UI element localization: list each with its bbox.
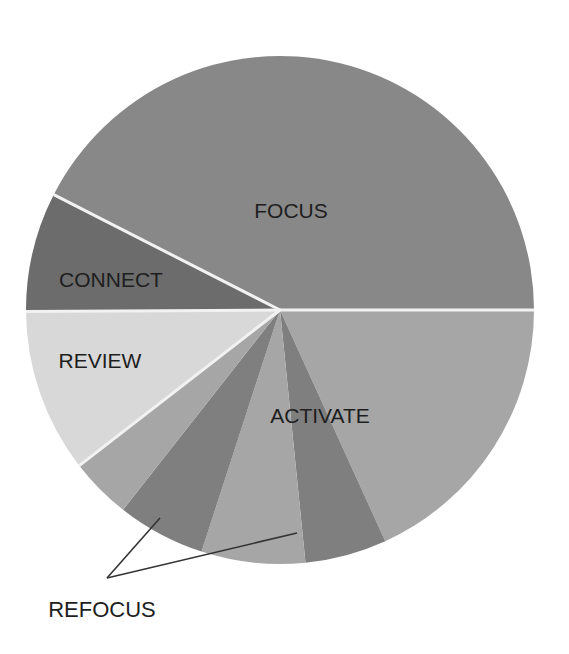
label-review: REVIEW <box>59 349 142 372</box>
slice-separator <box>26 310 280 312</box>
label-activate: ACTIVATE <box>270 404 370 427</box>
pie-chart: FOCUS CONNECT REVIEW ACTIVATE REFOCUS <box>0 0 569 654</box>
label-refocus: REFOCUS <box>48 597 156 622</box>
label-focus: FOCUS <box>254 199 328 222</box>
label-connect: CONNECT <box>59 268 163 291</box>
leader-line <box>107 518 160 578</box>
